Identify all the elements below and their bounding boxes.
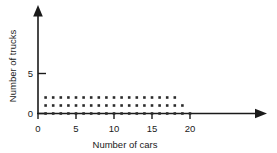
data-point <box>151 96 154 99</box>
data-point <box>120 112 123 115</box>
data-point <box>143 96 146 99</box>
x-tick-label-0: 0 <box>35 123 40 134</box>
data-point <box>136 104 139 107</box>
data-point <box>82 96 85 99</box>
data-point <box>174 112 177 115</box>
y-tick-marks <box>38 74 46 114</box>
data-point <box>136 112 139 115</box>
data-point <box>158 104 161 107</box>
data-point <box>166 112 169 115</box>
y-axis-title: Number of trucks <box>7 30 18 103</box>
data-point <box>60 104 63 107</box>
data-point <box>44 112 47 115</box>
scatter-plot: 0 5 10 15 20 0 5 Number of cars Number o… <box>0 0 277 153</box>
data-point <box>105 96 108 99</box>
data-point <box>52 112 55 115</box>
y-tick-label-5: 5 <box>28 68 33 79</box>
chart-screenshot: 0 5 10 15 20 0 5 Number of cars Number o… <box>0 0 277 153</box>
data-point <box>67 112 70 115</box>
data-point <box>120 104 123 107</box>
data-point <box>113 96 116 99</box>
data-point <box>166 104 169 107</box>
data-point <box>90 104 93 107</box>
data-point <box>128 112 131 115</box>
x-axis-title: Number of cars <box>93 139 158 150</box>
data-point <box>143 112 146 115</box>
data-point <box>174 96 177 99</box>
data-point <box>174 104 177 107</box>
data-point <box>60 112 63 115</box>
data-point <box>75 104 78 107</box>
data-point <box>120 96 123 99</box>
data-point <box>44 104 47 107</box>
data-point <box>181 112 184 115</box>
data-point <box>105 112 108 115</box>
data-point <box>67 96 70 99</box>
x-tick-label-5: 5 <box>73 123 78 134</box>
data-point <box>67 104 70 107</box>
data-point <box>128 104 131 107</box>
data-point <box>82 104 85 107</box>
data-point <box>90 112 93 115</box>
data-point <box>105 104 108 107</box>
data-point <box>181 104 184 107</box>
data-point <box>158 112 161 115</box>
data-point <box>98 96 101 99</box>
y-tick-label-0: 0 <box>28 108 33 119</box>
data-point <box>166 96 169 99</box>
data-point <box>98 112 101 115</box>
data-point <box>113 112 116 115</box>
data-point <box>90 96 93 99</box>
y-axis-arrowhead <box>33 5 43 17</box>
data-point <box>75 96 78 99</box>
data-point <box>52 96 55 99</box>
data-point <box>75 112 78 115</box>
x-tick-label-10: 10 <box>109 123 120 134</box>
data-point <box>98 104 101 107</box>
data-point <box>82 112 85 115</box>
data-point <box>128 96 131 99</box>
x-tick-label-15: 15 <box>147 123 158 134</box>
data-point <box>44 96 47 99</box>
data-point <box>189 112 192 115</box>
data-point <box>113 104 116 107</box>
data-point <box>52 104 55 107</box>
data-point <box>136 96 139 99</box>
x-axis-arrowhead <box>255 109 267 119</box>
data-point-group <box>44 96 191 115</box>
data-point <box>151 112 154 115</box>
data-point <box>151 104 154 107</box>
data-point <box>60 96 63 99</box>
data-point <box>143 104 146 107</box>
data-point <box>158 96 161 99</box>
x-tick-label-20: 20 <box>185 123 196 134</box>
